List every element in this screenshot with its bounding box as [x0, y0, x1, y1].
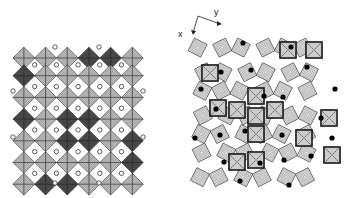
octahedron — [206, 165, 231, 190]
filled-cation-marker — [332, 86, 337, 91]
octahedron — [100, 173, 122, 195]
open-cation-marker — [119, 63, 123, 67]
open-cation-marker — [53, 45, 57, 49]
y-axis-arrow — [198, 16, 220, 24]
open-cation-marker — [54, 84, 58, 88]
square-unit — [248, 108, 264, 124]
octahedron — [78, 130, 100, 152]
filled-cation-marker — [288, 44, 293, 49]
filled-cation-marker — [217, 132, 222, 137]
filled-cation-marker — [192, 135, 197, 140]
octahedron — [100, 65, 122, 87]
open-cation-marker — [54, 171, 58, 175]
open-cation-marker — [33, 63, 37, 67]
square-unit — [324, 147, 340, 163]
octahedron — [274, 165, 299, 190]
filled-cation-marker — [286, 182, 291, 187]
open-cation-marker — [33, 149, 37, 153]
square-unit — [229, 154, 245, 170]
filled-cation-marker — [329, 135, 334, 140]
octahedron — [56, 130, 78, 152]
open-cation-marker — [11, 135, 15, 139]
filled-cation-marker — [218, 69, 223, 74]
octahedron — [35, 152, 57, 174]
square-unit — [229, 102, 245, 118]
octahedron — [56, 152, 78, 174]
open-cation-marker — [98, 63, 102, 67]
octahedron — [296, 60, 321, 85]
filled-cation-marker — [281, 157, 286, 162]
octahedron — [100, 130, 122, 152]
open-cation-marker — [98, 106, 102, 110]
octahedron — [100, 87, 122, 109]
octahedron — [35, 87, 57, 109]
left-structure-diagram — [0, 0, 174, 198]
open-cation-marker — [33, 171, 37, 175]
open-cation-marker — [119, 106, 123, 110]
octahedron — [78, 173, 100, 195]
open-cation-marker — [76, 128, 80, 132]
octahedron — [295, 78, 320, 103]
square-unit — [248, 126, 264, 142]
open-cation-marker — [76, 149, 80, 153]
axis-label-y: y — [214, 8, 219, 17]
square-unit — [248, 152, 264, 168]
octahedron — [187, 165, 212, 190]
open-cation-marker — [119, 128, 123, 132]
octahedron — [122, 87, 144, 109]
filled-cation-marker — [237, 178, 242, 183]
octahedron — [78, 108, 100, 130]
octahedron — [122, 130, 144, 152]
octahedron — [56, 87, 78, 109]
right-structure-diagram — [174, 0, 348, 198]
open-cation-marker — [98, 84, 102, 88]
octahedron — [35, 108, 57, 130]
open-cation-marker — [98, 128, 102, 132]
octahedron — [210, 35, 235, 60]
octahedron — [122, 108, 144, 130]
square-unit — [306, 42, 322, 58]
octahedron — [13, 65, 35, 87]
filled-cation-marker — [279, 132, 284, 137]
octahedron — [189, 121, 214, 146]
open-cation-marker — [97, 181, 101, 185]
filled-cation-marker — [304, 64, 309, 69]
filled-cation-marker — [198, 86, 203, 91]
octahedron — [13, 108, 35, 130]
octahedron — [13, 173, 35, 195]
open-cation-marker — [76, 63, 80, 67]
right-structure-panel: y x — [174, 0, 348, 198]
open-cation-marker — [141, 89, 145, 93]
filled-cation-marker — [248, 67, 253, 72]
octahedron — [78, 152, 100, 174]
filled-cation-marker — [318, 115, 323, 120]
square-unit — [202, 65, 218, 81]
open-cation-marker — [141, 135, 145, 139]
octahedron — [13, 130, 35, 152]
open-cation-marker — [119, 171, 123, 175]
octahedron — [100, 108, 122, 130]
filled-cation-marker — [242, 128, 247, 133]
open-cation-marker — [97, 45, 101, 49]
octahedron — [35, 130, 57, 152]
open-cation-marker — [54, 128, 58, 132]
octahedron — [253, 60, 278, 85]
left-structure-panel — [0, 0, 174, 198]
square-unit — [280, 42, 296, 58]
octahedron — [35, 65, 57, 87]
open-cation-marker — [54, 106, 58, 110]
x-axis-arrow — [193, 16, 198, 33]
filled-cation-marker — [280, 94, 285, 99]
open-cation-marker — [54, 63, 58, 67]
octahedron — [122, 152, 144, 174]
open-cation-marker — [11, 89, 15, 93]
open-cation-marker — [33, 128, 37, 132]
filled-cation-marker — [257, 160, 262, 165]
open-cation-marker — [119, 84, 123, 88]
octahedron — [122, 65, 144, 87]
octahedron — [185, 35, 210, 60]
open-cation-marker — [33, 106, 37, 110]
octahedron — [122, 173, 144, 195]
open-cation-marker — [98, 171, 102, 175]
square-unit — [267, 102, 283, 118]
